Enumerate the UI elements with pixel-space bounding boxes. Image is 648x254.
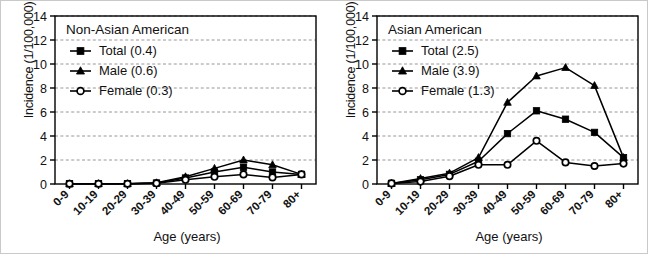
open-circle-marker	[182, 177, 188, 183]
y-axis-tick-label: 14	[355, 10, 369, 24]
y-axis-tick-label: 8	[40, 82, 47, 96]
chart-panel-non-asian-american: Incidence (1/100,000) 024681012140-910-1…	[1, 1, 325, 251]
y-axis-tick-label: 0	[362, 178, 369, 192]
y-axis-tick-label: 2	[362, 154, 369, 168]
panel-title: Asian American	[388, 22, 482, 37]
legend-label: Female (1.3)	[421, 83, 495, 98]
x-axis-title: Age (years)	[49, 229, 325, 244]
x-axis-tick-label: 70-79	[245, 188, 274, 217]
open-circle-marker	[95, 181, 101, 187]
x-axis-tick-label: 30-39	[451, 188, 480, 217]
legend-entry: Female (1.3)	[392, 83, 495, 98]
filled-triangle-marker	[240, 156, 248, 163]
y-axis-tick-label: 10	[355, 58, 369, 72]
gridlines-group	[377, 16, 638, 160]
x-axis-tick-label: 60-69	[216, 188, 245, 217]
filled-square-marker	[533, 108, 539, 114]
y-axis-tick-label: 2	[40, 154, 47, 168]
legend-label: Male (0.6)	[99, 63, 158, 78]
open-circle-marker	[124, 181, 130, 187]
filled-square-marker	[591, 129, 597, 135]
chart-panel-asian-american: Incidence (1/100,000) 024681012140-910-1…	[323, 1, 647, 251]
x-axis-tick-label: 40-49	[480, 188, 509, 217]
open-circle-marker	[620, 160, 626, 166]
open-circle-marker	[240, 171, 246, 177]
line-chart-svg-asian-american: 024681012140-910-1920-2930-3940-4950-596…	[323, 1, 647, 251]
legend-entry: Male (0.6)	[70, 63, 158, 78]
legend-entry: Total (0.4)	[70, 43, 157, 58]
x-axis-tick-label: 20-29	[100, 188, 129, 217]
x-axis-tick-label: 0-9	[51, 188, 71, 208]
x-axis-tick-label: 50-59	[187, 188, 216, 217]
gridlines-group	[55, 16, 316, 160]
filled-square-marker	[77, 48, 84, 55]
series-total	[388, 108, 626, 187]
open-circle-marker	[153, 180, 159, 186]
filled-square-marker	[240, 164, 246, 170]
open-circle-marker	[77, 88, 84, 95]
legend-entry: Female (0.3)	[70, 83, 173, 98]
legend-label: Total (2.5)	[421, 43, 479, 58]
x-axis-tick-label: 20-29	[422, 188, 451, 217]
plot-frame	[55, 16, 316, 184]
y-axis-tick-label: 4	[40, 130, 47, 144]
open-circle-marker	[66, 181, 72, 187]
x-axis-tick-label: 70-79	[567, 188, 596, 217]
y-axis-tick-label: 12	[33, 34, 47, 48]
y-axis-group: 02468101214	[33, 10, 55, 192]
open-circle-marker	[388, 180, 394, 186]
x-axis-title: Age (years)	[371, 229, 647, 244]
open-circle-marker	[562, 159, 568, 165]
legend-label: Male (3.9)	[421, 63, 480, 78]
y-axis-tick-label: 12	[355, 34, 369, 48]
x-axis-tick-label: 10-19	[71, 188, 100, 217]
filled-triangle-marker	[475, 154, 483, 161]
y-axis-tick-label: 6	[362, 106, 369, 120]
figure-container: Incidence (1/100,000) 024681012140-910-1…	[0, 0, 648, 254]
line-chart-svg-non-asian-american: 024681012140-910-1920-2930-3940-4950-596…	[1, 1, 325, 251]
open-circle-marker	[417, 178, 423, 184]
series-line	[392, 111, 624, 184]
open-circle-marker	[591, 163, 597, 169]
plot-area-wrapper-left: 024681012140-910-1920-2930-3940-4950-596…	[1, 1, 325, 251]
panel-title: Non-Asian American	[66, 22, 189, 37]
x-axis-tick-label: 50-59	[509, 188, 538, 217]
filled-square-marker	[562, 116, 568, 122]
y-axis-tick-label: 10	[33, 58, 47, 72]
x-axis-group: 0-910-1920-2930-3940-4950-5960-6970-7980…	[51, 184, 303, 217]
y-axis-tick-label: 14	[33, 10, 47, 24]
open-circle-marker	[533, 138, 539, 144]
open-circle-marker	[298, 171, 304, 177]
open-circle-marker	[269, 174, 275, 180]
x-axis-tick-label: 80+	[281, 188, 303, 210]
y-axis-tick-label: 6	[40, 106, 47, 120]
plot-area-wrapper-right: 024681012140-910-1920-2930-3940-4950-596…	[323, 1, 647, 251]
x-axis-tick-label: 0-9	[373, 188, 393, 208]
x-axis-tick-label: 60-69	[538, 188, 567, 217]
legend-entry: Total (2.5)	[392, 43, 479, 58]
filled-triangle-marker	[562, 64, 570, 71]
open-circle-marker	[211, 174, 217, 180]
x-axis-group: 0-910-1920-2930-3940-4950-5960-6970-7980…	[373, 184, 625, 217]
x-axis-tick-label: 10-19	[393, 188, 422, 217]
x-axis-tick-label: 40-49	[158, 188, 187, 217]
y-axis-tick-label: 8	[362, 82, 369, 96]
legend-label: Female (0.3)	[99, 83, 173, 98]
x-axis-tick-label: 80+	[603, 188, 625, 210]
y-axis-tick-label: 4	[362, 130, 369, 144]
filled-triangle-marker	[591, 82, 599, 89]
filled-square-marker	[399, 48, 406, 55]
x-axis-tick-label: 30-39	[129, 188, 158, 217]
open-circle-marker	[399, 88, 406, 95]
open-circle-marker	[475, 162, 481, 168]
filled-square-marker	[504, 130, 510, 136]
y-axis-tick-label: 0	[40, 178, 47, 192]
legend-entry: Male (3.9)	[392, 63, 480, 78]
open-circle-marker	[504, 162, 510, 168]
legend-label: Total (0.4)	[99, 43, 157, 58]
y-axis-group: 02468101214	[355, 10, 377, 192]
open-circle-marker	[446, 173, 452, 179]
